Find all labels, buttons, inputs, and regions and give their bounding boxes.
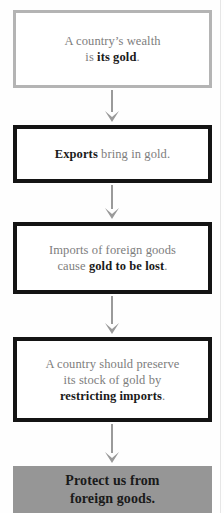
flow-node-wealth-is-gold: A country’s wealthis its gold. bbox=[13, 10, 212, 88]
arrow-head bbox=[105, 111, 119, 122]
flow-node-conclusion-protect-us: Protect us fromforeign goods. bbox=[13, 466, 212, 513]
arrow-down-icon-3 bbox=[104, 296, 120, 335]
arrow-down-icon-2 bbox=[104, 185, 120, 220]
arrow-head bbox=[105, 208, 119, 219]
arrow-shaft bbox=[111, 296, 113, 324]
arrow-shaft bbox=[111, 424, 113, 453]
arrow-down-icon-4 bbox=[104, 424, 120, 464]
flow-node-text: Imports of foreign goodscause gold to be… bbox=[41, 242, 184, 274]
arrow-shaft bbox=[111, 185, 113, 209]
flowchart: A country’s wealthis its gold. Exports b… bbox=[0, 0, 224, 513]
flow-node-text: A country should preserveits stock of go… bbox=[37, 356, 187, 404]
arrow-head bbox=[105, 452, 119, 463]
arrow-shaft bbox=[111, 90, 113, 112]
flow-node-exports-bring-gold: Exports bring in gold. bbox=[13, 125, 212, 183]
flow-node-imports-lose-gold: Imports of foreign goodscause gold to be… bbox=[13, 222, 212, 294]
arrow-down-icon-1 bbox=[104, 90, 120, 123]
flow-node-text: Exports bring in gold. bbox=[47, 146, 178, 162]
flow-node-text: Protect us fromforeign goods. bbox=[57, 472, 167, 508]
flow-node-restrict-imports: A country should preserveits stock of go… bbox=[13, 337, 212, 422]
arrow-head bbox=[105, 323, 119, 334]
flow-node-text: A country’s wealthis its gold. bbox=[56, 33, 168, 65]
